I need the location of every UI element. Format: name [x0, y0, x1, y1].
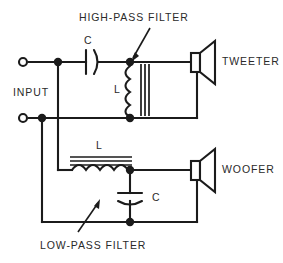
woofer-cone: [200, 149, 215, 192]
label-high-pass-filter: HIGH-PASS FILTER: [79, 11, 189, 23]
label-low-pass-filter: LOW-PASS FILTER: [40, 239, 146, 251]
circuit-diagram: HIGH-PASS FILTER LOW-PASS FILTER INPUT T…: [0, 0, 283, 263]
label-input: INPUT: [13, 86, 49, 98]
woofer-magnet-body: [191, 161, 200, 180]
input-terminal-bottom: [19, 114, 27, 122]
junction-low-node-bottom: [126, 218, 134, 226]
tweeter-cone: [200, 41, 215, 84]
high-pass-pointer-head: [131, 52, 139, 62]
junction-top-left: [54, 58, 62, 66]
junction-high-node-bottom: [126, 114, 134, 122]
tweeter-symbol: [191, 41, 215, 84]
cap-high-plate-curved: [94, 50, 98, 74]
label-cap-high: C: [84, 34, 92, 46]
inductor-high-coil: [126, 66, 131, 117]
label-tweeter: TWEETER: [222, 55, 280, 67]
inductor-low-pass: [70, 157, 132, 170]
label-inductor-low: L: [96, 139, 102, 151]
junction-low-node-top: [126, 166, 134, 174]
junction-bottom-left: [38, 114, 46, 122]
label-cap-low: C: [152, 191, 160, 203]
woofer-symbol: [191, 149, 215, 192]
capacitor-high-pass: [86, 50, 98, 74]
inductor-high-pass: [126, 64, 150, 117]
input-terminal-top: [19, 58, 27, 66]
label-inductor-high: L: [114, 83, 120, 95]
low-pass-pointer-line: [78, 203, 98, 232]
crossover-network-svg: HIGH-PASS FILTER LOW-PASS FILTER INPUT T…: [0, 0, 283, 263]
low-pass-pointer: [78, 199, 100, 232]
high-pass-pointer: [131, 28, 150, 62]
tweeter-magnet-body: [191, 53, 200, 72]
label-woofer: WOOFER: [222, 163, 275, 175]
wiring: [29, 62, 197, 222]
